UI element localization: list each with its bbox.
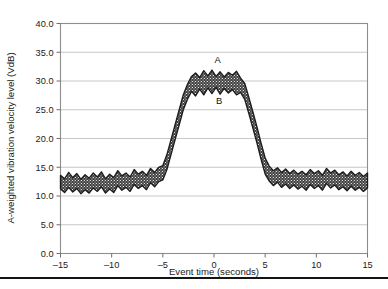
x-axis-title: Event time (seconds)	[169, 266, 259, 277]
x-tick-label--10: –10	[104, 260, 119, 270]
x-tick-label--15: –15	[53, 260, 68, 270]
chart-background	[0, 0, 388, 289]
x-tick-label-10: 10	[311, 260, 321, 270]
y-tick-label-40: 40.0	[36, 19, 54, 29]
y-axis-title: A-weighted vibration velocity level (VdB…	[5, 52, 16, 223]
x-tick-label--5: –5	[158, 260, 168, 270]
annotation-label-B: B	[216, 95, 222, 106]
x-tick-label-15: 15	[362, 260, 372, 270]
y-tick-label-20: 20.0	[36, 134, 54, 144]
y-tick-label-0: 0.0	[41, 249, 54, 259]
y-tick-label-30: 30.0	[36, 76, 54, 86]
x-tick-label-5: 5	[263, 260, 268, 270]
y-tick-label-10: 10.0	[36, 191, 54, 201]
vibration-event-chart: 0.05.010.015.020.025.030.035.040.0 –15–1…	[0, 0, 388, 289]
y-tick-label-35: 35.0	[36, 48, 54, 58]
y-tick-label-25: 25.0	[36, 105, 54, 115]
y-tick-label-15: 15.0	[36, 163, 54, 173]
y-tick-label-5: 5.0	[41, 220, 54, 230]
annotation-label-A: A	[214, 54, 221, 65]
figure-container: 0.05.010.015.020.025.030.035.040.0 –15–1…	[0, 0, 388, 289]
